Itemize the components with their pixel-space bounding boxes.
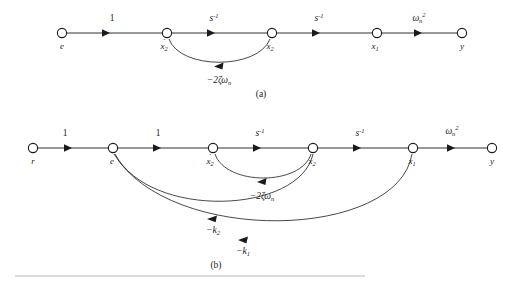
node-x1[interactable] bbox=[372, 28, 381, 37]
node-e-b[interactable] bbox=[108, 143, 117, 152]
node-label-x1: x1 bbox=[370, 41, 378, 52]
gain-label-damping-a: −2ζωn bbox=[207, 75, 231, 86]
diagram-b-feedback-damping bbox=[215, 154, 311, 185]
gain-label-x1-to-y-b: ωn2 bbox=[445, 124, 459, 138]
arrowhead-x2-to-x1-b bbox=[353, 144, 361, 152]
gain-label-xdot2-to-x2-b: s-1 bbox=[255, 127, 264, 139]
arrowhead-xdot2-to-x2 bbox=[207, 29, 215, 37]
arrowhead-k2 bbox=[207, 215, 217, 222]
diagram-a: e x2 · x2 x1 y 1 s-1 bbox=[57, 11, 466, 101]
gain-label-e-to-xdot2-b: 1 bbox=[156, 128, 161, 138]
node-y[interactable] bbox=[457, 28, 466, 37]
diagram-a-node-labels: e x2 · x2 x1 y bbox=[60, 34, 464, 53]
arrowhead-e-to-xdot2 bbox=[102, 29, 110, 37]
gain-label-r-to-e: 1 bbox=[63, 128, 68, 138]
arrowhead-x2-to-x1 bbox=[312, 29, 320, 37]
diagram-b-node-labels: r e x2 · x2 x1 y bbox=[31, 149, 494, 168]
arrowhead-damping-a bbox=[214, 63, 224, 70]
caption-b: (b) bbox=[210, 260, 221, 271]
signal-flow-graph-figure: e x2 · x2 x1 y 1 s-1 bbox=[0, 0, 523, 289]
arc-x2-to-e bbox=[115, 154, 313, 201]
node-label-x2: x2 bbox=[265, 41, 274, 52]
gain-label-k2: −k2 bbox=[206, 225, 221, 236]
node-label-e: e bbox=[60, 41, 64, 51]
node-label-y-b: y bbox=[489, 156, 494, 166]
node-label-r: r bbox=[31, 156, 35, 166]
arrowhead-damping-b bbox=[257, 178, 267, 185]
flowgraph-canvas: e x2 · x2 x1 y 1 s-1 bbox=[0, 0, 523, 289]
arrowhead-e-to-xdot2-b bbox=[153, 144, 161, 152]
gain-label-k1: −k1 bbox=[236, 246, 250, 257]
node-label-e-b: e bbox=[110, 156, 114, 166]
arrowhead-k1 bbox=[238, 237, 248, 244]
gain-label-e-to-xdot2: 1 bbox=[110, 13, 115, 23]
node-label-xdot2-b-dot: · bbox=[209, 149, 211, 159]
gain-label-x1-to-y: ωn2 bbox=[412, 11, 426, 25]
diagram-b: r e x2 · x2 x1 y 1 1 s-1 bbox=[28, 124, 496, 272]
node-r[interactable] bbox=[28, 143, 37, 152]
diagram-a-feedback-damping bbox=[169, 39, 270, 69]
diagram-b-gain-labels: 1 1 s-1 s-1 ωn2 −2ζωn −k2 bbox=[63, 124, 460, 258]
gain-label-x2-to-x1-b: s-1 bbox=[355, 127, 364, 139]
node-x2[interactable] bbox=[267, 28, 276, 37]
arrowhead-x1-to-y-b bbox=[447, 144, 455, 152]
arrowhead-xdot2-to-x2-b bbox=[253, 144, 261, 152]
gain-label-x2-to-x1: s-1 bbox=[314, 12, 323, 24]
arc-x1-to-e bbox=[114, 154, 412, 221]
node-y-b[interactable] bbox=[487, 143, 496, 152]
arc-x2-to-xdot2 bbox=[169, 39, 270, 62]
node-x1-b[interactable] bbox=[408, 143, 417, 152]
node-label-x1-b: x1 bbox=[407, 156, 415, 167]
arrowhead-r-to-e bbox=[64, 144, 72, 152]
node-label-xdot2-dot: · bbox=[163, 34, 165, 44]
node-e[interactable] bbox=[57, 28, 66, 37]
arrowhead-x1-to-y bbox=[414, 29, 422, 37]
gain-label-damping-b: −2ζωn bbox=[250, 191, 274, 202]
gain-label-xdot2-to-x2: s-1 bbox=[209, 12, 218, 24]
node-x2-b[interactable] bbox=[308, 143, 317, 152]
caption-a: (a) bbox=[256, 89, 267, 100]
diagram-b-feedback-k2 bbox=[115, 154, 313, 222]
arc-x2-to-xdot2-b bbox=[215, 154, 311, 178]
node-label-y: y bbox=[459, 41, 464, 51]
node-label-x2-b: x2 bbox=[307, 156, 316, 167]
